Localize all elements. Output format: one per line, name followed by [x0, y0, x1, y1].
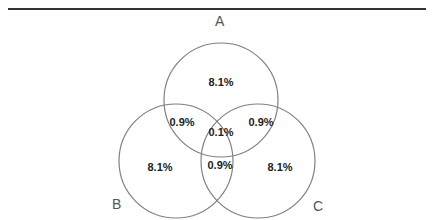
set-label-c: C	[313, 198, 323, 214]
region-bc: 0.9%	[207, 159, 232, 171]
region-c-only: 8.1%	[267, 161, 292, 173]
region-b-only: 8.1%	[147, 161, 172, 173]
set-label-b: B	[112, 196, 121, 212]
region-ab: 0.9%	[169, 116, 194, 128]
region-ac: 0.9%	[248, 116, 273, 128]
venn-diagram	[0, 0, 432, 220]
region-abc: 0.1%	[208, 126, 233, 138]
circle-a	[164, 43, 278, 157]
region-a-only: 8.1%	[208, 76, 233, 88]
set-label-a: A	[215, 13, 224, 29]
